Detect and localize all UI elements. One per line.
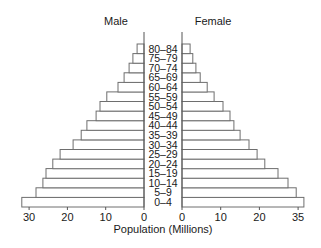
male-bar-0–4 [22,197,144,207]
male-bar-50–54 [100,102,144,112]
male-bar-45–49 [96,111,144,121]
female-bar-45–49 [182,111,230,121]
female-tick-label: 10 [215,211,227,223]
female-bar-10–14 [182,178,288,188]
male-bar-15–19 [46,169,144,179]
female-bar-30–34 [182,140,249,150]
female-bar-15–19 [182,169,278,179]
female-tick-label: 35 [292,211,304,223]
female-bar-35–39 [182,130,240,140]
male-bar-65–69 [124,73,144,83]
male-tick-label: 30 [23,211,35,223]
male-tick-label: 20 [61,211,73,223]
female-bar-70–74 [182,63,196,73]
female-bar-60–64 [182,82,207,92]
female-bar-75–79 [182,54,193,64]
male-bar-30–34 [73,140,144,150]
male-bar-55–59 [107,92,144,102]
age-labels: 0–45–910–1415–1920–2425–2930–3435–3940–4… [148,43,177,208]
male-bar-20–24 [53,159,144,169]
female-bar-55–59 [182,92,214,102]
female-tick-label: 0 [179,211,185,223]
male-bar-80–84 [137,44,144,54]
male-bar-40–44 [87,121,144,131]
female-bar-0–4 [182,197,304,207]
female-bar-50–54 [182,102,223,112]
age-group-label: 80–84 [148,43,177,55]
female-bar-80–84 [182,44,190,54]
female-bar-65–69 [182,73,200,83]
male-tick-label: 10 [100,211,112,223]
male-x-axis-ticks: 0102030 [23,207,147,223]
male-bar-10–14 [43,178,144,188]
female-bar-40–44 [182,121,234,131]
female-tick-label: 20 [253,211,265,223]
female-bar-25–29 [182,150,257,160]
male-bar-60–64 [118,82,144,92]
male-bars [22,44,144,207]
male-bar-70–74 [129,63,144,73]
male-bar-5–9 [36,188,144,198]
female-bar-5–9 [182,188,296,198]
x-axis-label: Population (Millions) [113,223,212,235]
female-bars [182,44,304,207]
male-bar-25–29 [60,150,144,160]
female-bar-20–24 [182,159,265,169]
population-pyramid-chart: 0–45–910–1415–1920–2425–2930–3435–3940–4… [0,0,321,248]
male-tick-label: 0 [141,211,147,223]
male-bar-75–79 [133,54,144,64]
male-bar-35–39 [81,130,144,140]
female-x-axis-ticks: 0102035 [179,207,304,223]
